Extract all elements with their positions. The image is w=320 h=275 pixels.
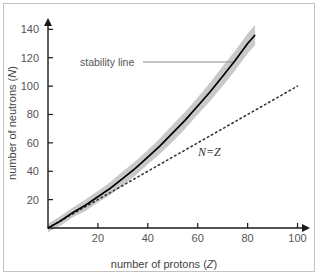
y-tick-label: 60 [27, 137, 39, 149]
x-tick-label: 80 [241, 232, 253, 244]
y-tick-label: 140 [21, 23, 39, 35]
n-equals-z-label: N=Z [197, 145, 221, 159]
y-axis-arrow-icon [44, 18, 52, 26]
x-axis-title-suffix: ) [214, 258, 218, 270]
y-tick-label: 100 [21, 80, 39, 92]
y-axis-tick-labels: 20406080100120140 [21, 23, 39, 205]
x-axis-title-prefix: number of protons ( [111, 258, 207, 270]
x-tick-label: 40 [142, 232, 154, 244]
y-axis-ticks [48, 29, 53, 199]
y-tick-label: 120 [21, 52, 39, 64]
y-axis-title-prefix: number of neutrons ( [6, 77, 18, 179]
y-axis-title: number of neutrons (N) [6, 66, 18, 180]
x-tick-label: 60 [192, 232, 204, 244]
figure-container: 20406080100 20406080100120140 stability … [0, 0, 320, 275]
y-tick-label: 20 [27, 194, 39, 206]
y-tick-label: 40 [27, 165, 39, 177]
x-axis-arrow-icon [302, 224, 310, 232]
x-tick-label: 100 [288, 232, 306, 244]
y-axis-title-symbol: N [6, 70, 18, 78]
x-tick-label: 20 [92, 232, 104, 244]
x-axis-tick-labels: 20406080100 [92, 232, 307, 244]
n-equals-z-line [48, 86, 298, 228]
stability-line-label: stability line [80, 56, 134, 68]
nuclear-stability-chart: 20406080100 20406080100120140 stability … [0, 0, 320, 275]
y-tick-label: 80 [27, 108, 39, 120]
y-axis-title-suffix: ) [6, 66, 18, 70]
x-axis-title: number of protons (Z) [111, 258, 217, 270]
x-axis-ticks [98, 223, 298, 228]
